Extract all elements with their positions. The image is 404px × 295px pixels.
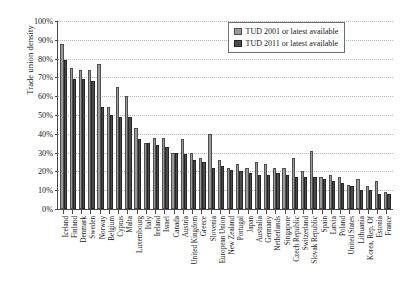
bar (304, 177, 307, 209)
x-axis-cell: Luxembourg (132, 210, 141, 295)
bar (193, 160, 196, 209)
bar-group (152, 21, 161, 209)
x-axis-cell: Ireland (151, 210, 160, 295)
x-axis-cell: Poland (336, 210, 345, 295)
x-axis-cell: Malta (123, 210, 132, 295)
x-tick-label: France (386, 216, 393, 236)
x-tick-mark (368, 210, 369, 214)
x-axis-cell: Israel (160, 210, 169, 295)
bar-group (78, 21, 87, 209)
bar (387, 194, 390, 209)
x-tick-mark (90, 210, 91, 214)
x-tick-mark (109, 210, 110, 214)
x-axis-cell: Slovak Republic (308, 210, 317, 295)
bar-group (87, 21, 96, 209)
x-tick-mark (137, 210, 138, 214)
bar (378, 194, 381, 209)
x-tick-mark (229, 210, 230, 214)
x-tick-mark (220, 210, 221, 214)
x-tick-mark (211, 210, 212, 214)
bar-group (364, 21, 373, 209)
bar (184, 154, 187, 209)
bar-group (170, 21, 179, 209)
bar (221, 166, 224, 209)
y-tick-label: 0% (42, 205, 53, 214)
x-axis-cell: Cyprus (114, 210, 123, 295)
bar-group (115, 21, 124, 209)
bar (258, 175, 261, 209)
x-axis-cell: Latvia (326, 210, 335, 295)
y-tick-label: 80% (38, 54, 53, 63)
x-axis-cell: United States (345, 210, 354, 295)
x-axis-cell: Switzerland (299, 210, 308, 295)
bar-group (68, 21, 77, 209)
bar (360, 190, 363, 209)
x-axis-cell: Italy (141, 210, 150, 295)
x-axis-cell: Germany (262, 210, 271, 295)
x-axis-cell: Finland (67, 210, 76, 295)
x-axis-labels: IcelandFinlandDenmarkSwedenNorwayBelgium… (57, 210, 392, 295)
x-axis-cell: United Kingdom (188, 210, 197, 295)
x-tick-mark (127, 210, 128, 214)
bar (128, 117, 131, 209)
bar-group (133, 21, 142, 209)
bar-group (142, 21, 151, 209)
x-tick-mark (386, 210, 387, 214)
bar (147, 143, 150, 209)
legend-swatch-icon-series-2 (234, 40, 242, 48)
x-tick-mark (72, 210, 73, 214)
x-axis-cell: Sweden (86, 210, 95, 295)
bar-group (59, 21, 68, 209)
bar (156, 145, 159, 209)
x-tick-mark (285, 210, 286, 214)
y-tick-label: 50% (38, 111, 53, 120)
bar (323, 179, 326, 209)
x-tick-mark (192, 210, 193, 214)
bar-group (355, 21, 364, 209)
legend-label-series-2: TUD 2011 or latest available (246, 39, 339, 48)
x-tick-mark (174, 210, 175, 214)
x-axis-cell: Canada (169, 210, 178, 295)
x-tick-mark (100, 210, 101, 214)
bar (202, 162, 205, 209)
x-tick-mark (238, 210, 239, 214)
bar (369, 190, 372, 209)
x-axis-cell: Slovenia (206, 210, 215, 295)
x-axis-cell: New Zealand (225, 210, 234, 295)
trade-union-density-chart: Trade union density 100%90%80%70%60%50%4… (0, 0, 404, 295)
x-tick-mark (312, 210, 313, 214)
bar (175, 153, 178, 209)
bar-group (383, 21, 392, 209)
x-axis-cell: Denmark (77, 210, 86, 295)
x-tick-mark (359, 210, 360, 214)
y-tick-label: 30% (38, 148, 53, 157)
x-axis-cell: Netherlands (271, 210, 280, 295)
bar (341, 183, 344, 209)
x-axis-cell: Czech Republic (289, 210, 298, 295)
x-tick-mark (266, 210, 267, 214)
x-tick-mark (303, 210, 304, 214)
x-tick-mark (349, 210, 350, 214)
bar-group (374, 21, 383, 209)
y-tick-label: 10% (38, 186, 53, 195)
legend-item-series-2: TUD 2011 or latest available (234, 39, 338, 48)
bar (332, 181, 335, 209)
bar (138, 139, 141, 209)
chart-legend: TUD 2001 or latest available TUD 2011 or… (228, 22, 345, 53)
bar-group (105, 21, 114, 209)
bar (295, 177, 298, 209)
bar-group (198, 21, 207, 209)
x-tick-mark (340, 210, 341, 214)
bar-group (179, 21, 188, 209)
bar (239, 171, 242, 209)
x-tick-mark (155, 210, 156, 214)
bar-group (161, 21, 170, 209)
bar (110, 115, 113, 209)
x-axis-cell: Singapore (280, 210, 289, 295)
x-tick-mark (81, 210, 82, 214)
x-axis-cell: Australia (252, 210, 261, 295)
bar-group (124, 21, 133, 209)
x-tick-mark (331, 210, 332, 214)
bar-group (96, 21, 105, 209)
bar (101, 107, 104, 209)
